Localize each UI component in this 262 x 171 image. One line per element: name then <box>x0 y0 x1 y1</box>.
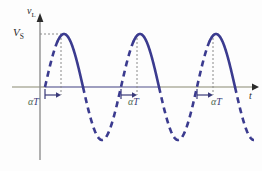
y-axis-label-sub: L <box>31 11 35 19</box>
alpha-t-label-1: αT <box>28 97 39 107</box>
peak-value-label-main: V <box>13 26 20 38</box>
alpha-arrow-head-1 <box>56 92 61 97</box>
alpha-t-label-2: αT <box>128 97 139 107</box>
y-axis-arrowhead <box>37 13 44 22</box>
y-axis-label: vL <box>27 6 36 19</box>
period-symbol-1: T <box>33 96 39 107</box>
peak-value-label-sub: S <box>20 32 24 41</box>
waveform-dashed-seg-3 <box>159 41 210 140</box>
period-symbol-3: T <box>216 96 222 107</box>
waveform-dashed-seg-2 <box>83 41 134 140</box>
x-axis-label: t <box>249 91 252 101</box>
x-axis-arrowhead <box>252 84 259 91</box>
alpha-t-label-3: αT <box>211 97 222 107</box>
waveform-plot <box>0 0 262 171</box>
waveform-figure: vL VS t αT αT αT <box>0 0 262 171</box>
period-symbol-2: T <box>133 96 139 107</box>
waveform-dashed-seg-1 <box>45 41 58 87</box>
peak-value-label: VS <box>13 27 24 41</box>
